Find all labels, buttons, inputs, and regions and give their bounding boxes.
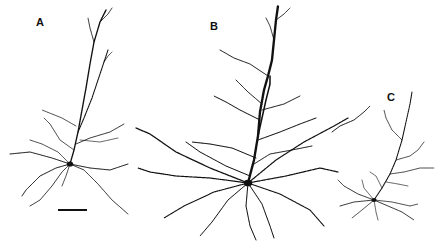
neuron-figure: A B C <box>0 0 442 244</box>
panel-c-label: C <box>387 91 395 103</box>
panel-b-label: B <box>210 20 218 32</box>
panel-a-label: A <box>36 16 44 28</box>
soma <box>244 180 252 187</box>
figure-background <box>0 0 442 244</box>
soma <box>67 161 73 166</box>
soma <box>371 198 376 202</box>
